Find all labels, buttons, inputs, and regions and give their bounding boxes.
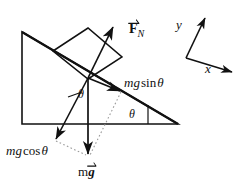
mg-cos-prefix: mg (6, 143, 22, 158)
weight-label: mg (78, 165, 95, 178)
x-axis-label: x (205, 62, 211, 75)
dotted-line-cos-to-weight (56, 141, 86, 155)
angle-label-incline: θ (129, 108, 135, 120)
mg-cos-theta-label: mg cos θ (6, 144, 48, 157)
normal-force-symbol: F (129, 21, 138, 36)
force-vectors (56, 27, 120, 154)
normal-force-label: FN (129, 22, 144, 39)
mg-sin-theta-label: mg sin θ (124, 76, 164, 89)
normal-force-subscript: N (138, 28, 145, 39)
mg-cos-angle: θ (41, 143, 47, 158)
weight-gravity-symbol: g (88, 164, 95, 179)
inclined-plane-diagram: FN mg sin θ mg cos θ mg y x θ θ (0, 0, 246, 188)
cos-function: cos (23, 143, 40, 158)
mg-sin-angle: θ (157, 75, 163, 90)
diagram-canvas (0, 0, 246, 188)
mg-sin-prefix: mg (124, 75, 140, 90)
angle-label-vectors: θ (78, 88, 84, 100)
weight-mass-symbol: m (78, 164, 88, 179)
y-axis-label: y (176, 18, 182, 31)
y-axis-arrow (186, 18, 205, 58)
sin-function: sin (141, 75, 156, 90)
